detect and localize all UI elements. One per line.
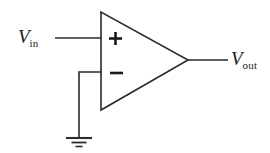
output-voltage-symbol: V xyxy=(231,48,243,69)
output-voltage-label: Vout xyxy=(231,49,257,71)
input-voltage-symbol: V xyxy=(18,26,30,47)
opamp-schematic xyxy=(0,0,270,153)
opamp-triangle xyxy=(101,12,188,110)
input-voltage-label: Vin xyxy=(18,27,39,49)
input-voltage-subscript: in xyxy=(30,37,39,49)
inverting-input-ground-wire xyxy=(79,72,102,138)
circuit-figure: Vin Vout xyxy=(0,0,270,153)
ground-symbol xyxy=(66,138,92,147)
output-voltage-subscript: out xyxy=(243,59,258,71)
